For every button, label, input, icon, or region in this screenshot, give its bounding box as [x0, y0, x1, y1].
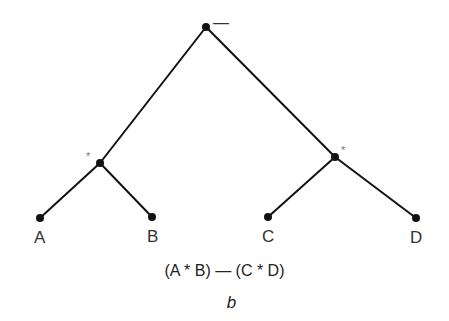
- edge-left-a: [40, 163, 100, 218]
- edge-root-left: [100, 27, 206, 163]
- tree-nodes: [36, 23, 420, 222]
- node-leaf-b: [148, 213, 156, 221]
- node-leaf-c: [264, 213, 272, 221]
- figure-caption: b: [0, 293, 449, 313]
- left-operator-label: *: [86, 151, 90, 162]
- leaf-label-d: D: [410, 229, 422, 246]
- edge-left-b: [100, 163, 152, 217]
- root-operator-label: —: [213, 15, 229, 31]
- node-right-op: [331, 153, 339, 161]
- expression-text: (A * B) — (C * D): [0, 262, 449, 280]
- leaf-label-b: B: [147, 228, 158, 245]
- leaf-label-a: A: [34, 229, 45, 246]
- edge-right-c: [268, 157, 335, 217]
- leaf-label-c: C: [262, 228, 274, 245]
- node-root: [202, 23, 210, 31]
- node-left-op: [96, 159, 104, 167]
- node-leaf-d: [412, 214, 420, 222]
- edge-right-d: [335, 157, 416, 218]
- right-operator-label: *: [341, 145, 345, 156]
- node-leaf-a: [36, 214, 44, 222]
- tree-edges: [40, 27, 416, 218]
- edge-root-right: [206, 27, 335, 157]
